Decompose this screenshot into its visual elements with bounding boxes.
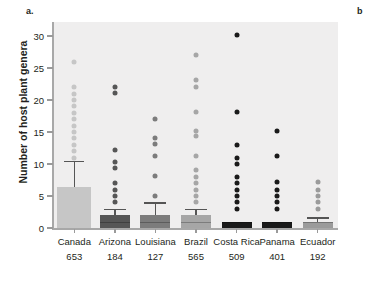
outlier-point-ecuador <box>315 206 320 211</box>
y-tick-10 <box>47 163 53 165</box>
y-tick-20 <box>47 99 53 101</box>
x-tick-ecuador <box>317 229 319 233</box>
plot-background <box>54 22 338 228</box>
figure-panel-a: a. b 051015202530 Canada653Arizona184Lou… <box>0 0 373 284</box>
y-tick-label-0: 0 <box>4 223 44 234</box>
panel-a-letter: a. <box>26 6 34 16</box>
x-sample-size-panama: 401 <box>269 251 285 262</box>
plot-marks-layer <box>54 22 338 228</box>
y-axis-line <box>52 22 54 229</box>
y-axis-title: Number of host plant genera <box>17 22 29 202</box>
x-tick-brazil <box>195 229 197 233</box>
x-label-brazil: Brazil <box>184 236 208 247</box>
x-sample-size-canada: 653 <box>66 251 82 262</box>
x-label-arizona: Arizona <box>99 236 131 247</box>
boxplot-ecuador <box>54 22 338 228</box>
x-label-canada: Canada <box>58 236 91 247</box>
median-line-ecuador <box>303 222 333 224</box>
outlier-point-ecuador <box>315 187 320 192</box>
x-tick-panama <box>276 229 278 233</box>
x-label-louisiana: Louisiana <box>135 236 176 247</box>
whisker-cap-ecuador <box>307 217 329 219</box>
x-sample-size-ecuador: 192 <box>310 251 326 262</box>
y-tick-15 <box>47 131 53 133</box>
outlier-point-ecuador <box>315 200 320 205</box>
x-label-costa-rica: Costa Rica <box>213 236 259 247</box>
outlier-point-ecuador <box>315 194 320 199</box>
x-sample-size-arizona: 184 <box>107 251 123 262</box>
outlier-point-ecuador <box>315 179 320 184</box>
y-tick-0 <box>47 227 53 229</box>
x-label-ecuador: Ecuador <box>300 236 335 247</box>
x-tick-arizona <box>114 229 116 233</box>
x-sample-size-louisiana: 127 <box>147 251 163 262</box>
x-label-panama: Panama <box>259 236 294 247</box>
x-tick-canada <box>74 229 76 233</box>
panel-b-letter: b <box>357 6 363 16</box>
x-tick-louisiana <box>155 229 157 233</box>
x-sample-size-brazil: 565 <box>188 251 204 262</box>
y-tick-30 <box>47 35 53 37</box>
x-tick-costa-rica <box>236 229 238 233</box>
y-tick-25 <box>47 67 53 69</box>
y-tick-5 <box>47 195 53 197</box>
x-sample-size-costa-rica: 509 <box>229 251 245 262</box>
